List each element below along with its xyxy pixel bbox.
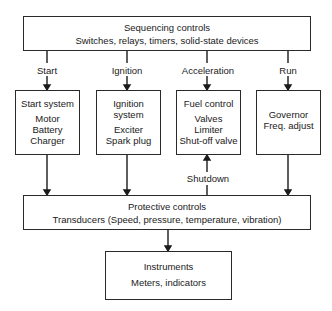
instruments-subtitle: Meters, indicators <box>106 277 231 288</box>
instruments-box: Instruments Meters, indicators <box>105 251 232 300</box>
instruments-title: Instruments <box>106 261 231 272</box>
protective-controls-box: Protective controls Transducers (Speed, … <box>23 195 311 230</box>
ignition-item: Exciter <box>97 124 160 135</box>
fuel-control-box: Fuel control Valves Limiter Shut-off val… <box>176 90 241 155</box>
start-item: Motor <box>16 113 79 124</box>
sequencing-controls-box: Sequencing controls Switches, relays, ti… <box>23 16 311 51</box>
fuel-item: Valves <box>177 113 240 124</box>
protective-title: Protective controls <box>24 201 310 212</box>
ignition-item: Spark plug <box>97 135 160 146</box>
governor-box: Governor Freq. adjust <box>256 90 321 155</box>
fuel-control-title: Fuel control <box>177 98 240 109</box>
start-item: Charger <box>16 135 79 146</box>
start-label: Start <box>37 65 57 76</box>
fuel-item: Limiter <box>177 124 240 135</box>
governor-item: Freq. adjust <box>257 120 320 131</box>
sequencing-subtitle: Switches, relays, timers, solid-state de… <box>24 35 310 46</box>
ignition-system-title: Ignition system <box>97 98 160 120</box>
governor-item: Governor <box>257 109 320 120</box>
shutdown-label: Shutdown <box>187 173 229 184</box>
start-item: Battery <box>16 124 79 135</box>
start-system-box: Start system Motor Battery Charger <box>15 90 80 155</box>
acceleration-label: Acceleration <box>182 65 234 76</box>
sequencing-title: Sequencing controls <box>24 22 310 33</box>
run-label: Run <box>279 65 296 76</box>
fuel-item: Shut-off valve <box>177 135 240 146</box>
ignition-system-box: Ignition system Exciter Spark plug <box>96 90 161 155</box>
protective-subtitle: Transducers (Speed, pressure, temperatur… <box>24 214 310 225</box>
start-system-title: Start system <box>16 98 79 109</box>
ignition-label: Ignition <box>112 65 143 76</box>
